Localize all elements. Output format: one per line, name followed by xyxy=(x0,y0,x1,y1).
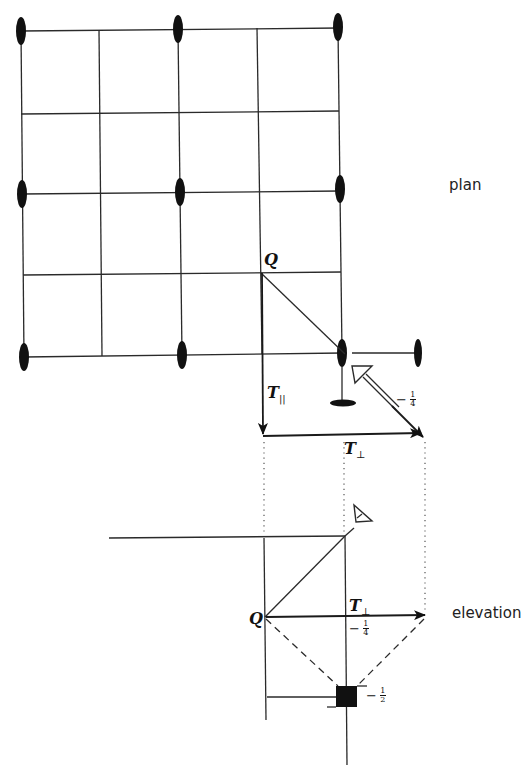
twofold-axis-icon xyxy=(19,343,29,371)
dashed-line-left xyxy=(266,619,338,686)
twofold-axis-icon xyxy=(414,339,422,367)
height-sign: − xyxy=(349,621,360,636)
t-perp-subscript: ⊥ xyxy=(356,449,365,460)
t-perp-arrow-plan xyxy=(263,433,421,436)
twofold-axis-icon xyxy=(337,339,347,367)
elevation-frame xyxy=(109,528,354,765)
twofold-axis-icon xyxy=(17,180,27,208)
threefold-screw-icon xyxy=(352,366,372,383)
t-perp-subscript: ⊥ xyxy=(361,606,370,617)
elevation-label: elevation xyxy=(452,604,521,622)
twofold-axis-horizontal-icon xyxy=(330,400,356,407)
twofold-axis-icon xyxy=(335,175,345,203)
t-perp-label-plan: T⊥ xyxy=(344,439,365,460)
t-perp-symbol: T xyxy=(349,596,361,615)
twofold-axis-icon xyxy=(175,178,185,206)
height-sign: − xyxy=(366,688,377,703)
t-parallel-label: T|| xyxy=(267,383,286,404)
twofold-axis-icon xyxy=(16,17,26,45)
t-parallel-arrow xyxy=(262,273,263,434)
plan-label: plan xyxy=(449,176,481,194)
height-numerator: 1 xyxy=(410,391,415,399)
t-perp-arrow-elevation xyxy=(266,615,425,617)
symmetry-diagram xyxy=(0,0,527,765)
projection-lines xyxy=(264,442,425,610)
t-parallel-symbol: T xyxy=(267,383,279,402)
height-numerator: 1 xyxy=(363,620,368,628)
twofold-axis-icon xyxy=(173,15,183,43)
fourfold-inversion-icon xyxy=(336,686,357,707)
twofold-axis-icon xyxy=(177,341,187,369)
height-label-plan-screw: − 14 xyxy=(396,391,416,408)
plan-diagonal xyxy=(261,273,345,354)
height-denominator: 4 xyxy=(410,400,415,408)
height-denominator: 4 xyxy=(363,629,368,637)
q-label-elevation: Q xyxy=(249,609,263,628)
q-label-plan: Q xyxy=(264,250,278,269)
twofold-axis-icon xyxy=(333,13,343,41)
height-sign: − xyxy=(396,392,407,407)
t-perp-symbol: T xyxy=(344,439,356,458)
height-denominator: 2 xyxy=(380,696,385,704)
threefold-screw-icon-elevation xyxy=(354,505,372,522)
height-numerator: 1 xyxy=(380,687,385,695)
height-label-elevation-t-perp: − 14 xyxy=(349,620,369,637)
height-label-elevation-square: − 12 xyxy=(366,687,386,704)
t-parallel-subscript: || xyxy=(279,393,286,404)
t-perp-label-elevation: T⊥ xyxy=(349,596,370,617)
